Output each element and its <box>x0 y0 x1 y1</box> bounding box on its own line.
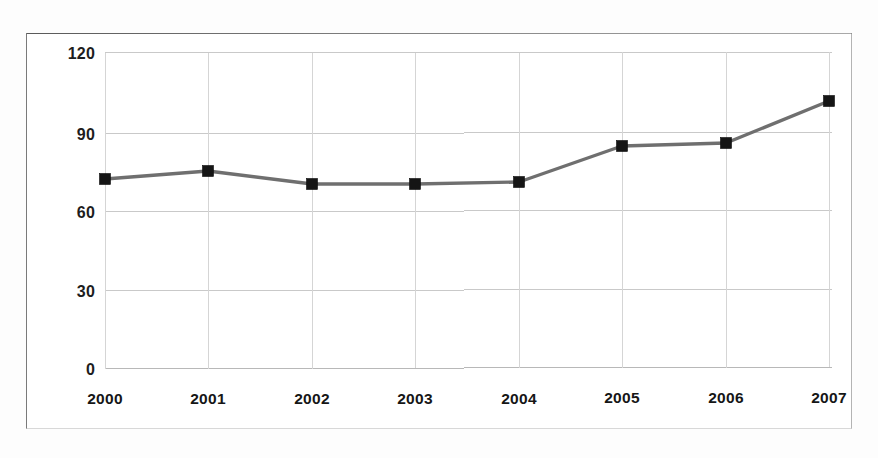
x-tick-label-2001: 2001 <box>190 390 226 407</box>
x-tick-label-2006: 2006 <box>708 389 744 406</box>
data-point-2007 <box>824 96 835 107</box>
data-series-group <box>100 96 835 190</box>
y-tick-label-60: 60 <box>77 204 95 221</box>
gridline-y-90 <box>105 132 832 134</box>
gridline-y-60 <box>105 210 832 212</box>
data-point-2001 <box>203 166 214 177</box>
chart-plot-area: 120 90 60 30 0 2000 2001 2002 2003 2004 <box>0 0 878 458</box>
x-axis-tick-labels: 2000 2001 2002 2003 2004 2005 2006 2007 <box>87 389 847 407</box>
y-tick-label-120: 120 <box>68 45 95 62</box>
y-tick-label-0: 0 <box>86 361 95 378</box>
x-tick-label-2005: 2005 <box>604 389 640 406</box>
data-point-2004 <box>514 177 525 188</box>
x-tick-label-2004: 2004 <box>501 390 537 407</box>
x-tick-label-2007: 2007 <box>811 389 847 406</box>
gridline-y-30 <box>105 289 832 291</box>
gridline-y-0-baseline <box>105 367 832 369</box>
x-tick-label-2000: 2000 <box>87 390 123 407</box>
data-point-2005 <box>617 141 628 152</box>
y-axis-tick-labels: 120 90 60 30 0 <box>68 45 95 378</box>
data-point-2000 <box>100 174 111 185</box>
data-point-2002 <box>307 179 318 190</box>
data-point-2003 <box>410 179 421 190</box>
x-tick-label-2002: 2002 <box>294 390 330 407</box>
y-tick-label-30: 30 <box>77 283 95 300</box>
data-point-2006 <box>721 138 732 149</box>
horizontal-gridlines <box>105 52 832 369</box>
gridline-y-120 <box>105 52 832 53</box>
line-chart: 120 90 60 30 0 2000 2001 2002 2003 2004 <box>0 0 878 458</box>
y-tick-label-90: 90 <box>77 126 95 143</box>
x-tick-label-2003: 2003 <box>397 390 433 407</box>
